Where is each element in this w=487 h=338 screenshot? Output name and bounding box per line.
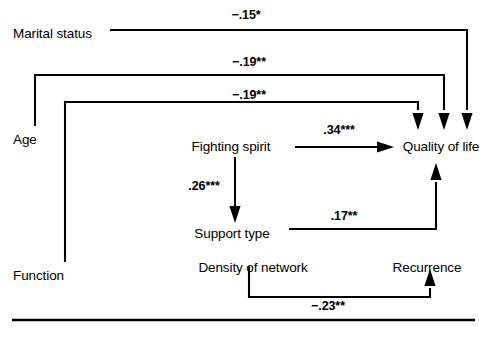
path-label-function-to-qol: −.19** bbox=[232, 89, 266, 102]
node-quality-of-life: Quality of life bbox=[403, 140, 480, 154]
node-recurrence: Recurrence bbox=[393, 261, 462, 275]
path-label-support-to-qol: .17** bbox=[331, 210, 358, 223]
path-diagram-figure: Marital status Age Function Fighting spi… bbox=[0, 0, 487, 338]
node-marital-status: Marital status bbox=[13, 27, 92, 41]
path-label-fighting-to-qol: .34*** bbox=[323, 124, 354, 137]
path-line-fighting-to-support bbox=[229, 157, 240, 223]
path-label-fighting-to-support: .26*** bbox=[188, 180, 219, 193]
node-function: Function bbox=[13, 269, 64, 283]
path-label-age-to-qol: −.19** bbox=[232, 56, 266, 69]
path-label-marital-to-qol: −.15* bbox=[231, 9, 260, 22]
path-line-fighting-to-qol bbox=[295, 141, 394, 152]
path-label-density-to-recurrence: −.23** bbox=[311, 300, 345, 313]
node-age: Age bbox=[13, 133, 37, 147]
node-support-type: Support type bbox=[194, 227, 269, 241]
path-diagram-connectors bbox=[0, 0, 487, 338]
node-density-of-network: Density of network bbox=[198, 261, 307, 275]
path-line-support-to-qol bbox=[289, 163, 442, 229]
node-fighting-spirit: Fighting spirit bbox=[192, 140, 271, 154]
